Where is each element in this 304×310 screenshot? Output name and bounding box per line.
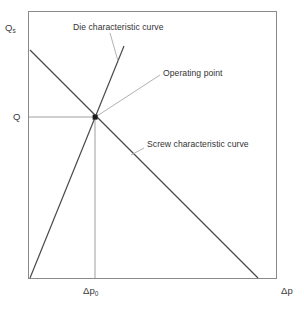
annotation-operating-point: Operating point [163,68,223,78]
x-axis-operating-label-text: Δp [83,285,95,296]
y-axis-operating-label: Q [13,111,21,122]
operating-point-marker [93,115,98,120]
x-axis-label: Δp [281,285,293,296]
leader-line-screw-curve [131,148,144,155]
screw-characteristic-curve [30,50,258,278]
annotation-screw-characteristic-curve: Screw characteristic curve [147,139,249,149]
x-axis-label-text: Δp [281,285,293,296]
plot-canvas [0,0,304,310]
annotation-die-characteristic-curve: Die characteristic curve [73,22,164,32]
x-axis-operating-label: Δp0 [83,285,99,296]
x-axis-operating-label-subscript: 0 [95,290,99,297]
y-axis-operating-label-text: Q [13,111,21,122]
characteristic-curve-figure: Qs Q Δp0 Δp Die characteristic curve Ope… [0,0,304,310]
leader-line-die-curve [110,33,118,61]
y-axis-max-label-text: Q [5,22,13,33]
leader-line-operating-point [97,75,160,116]
y-axis-max-label: Qs [5,22,16,33]
die-characteristic-curve [30,46,124,278]
y-axis-max-label-subscript: s [13,27,16,34]
